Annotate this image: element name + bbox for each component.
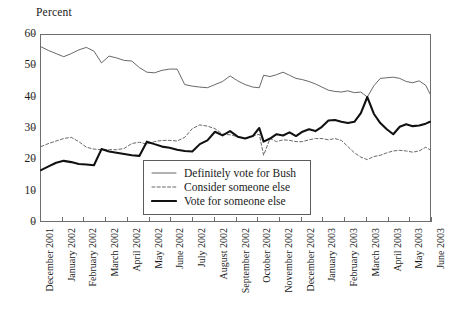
x-tick-label: March 2002 — [105, 179, 115, 228]
legend-item: Consider someone else — [151, 180, 303, 194]
y-tick-mark — [31, 65, 36, 66]
x-tick-label: January 2003 — [322, 174, 332, 228]
chart-figure: Percent 0102030405060 December 2001Janua… — [0, 0, 455, 317]
legend-swatch-icon — [151, 167, 177, 179]
y-tick-mark — [31, 128, 36, 129]
x-tick-label: February 2003 — [344, 169, 354, 228]
legend-label: Vote for someone else — [184, 195, 286, 208]
legend-item: Definitely vote for Bush — [151, 166, 303, 180]
series-line — [41, 47, 430, 97]
y-tick-mark — [31, 34, 36, 35]
legend-label: Definitely vote for Bush — [184, 167, 296, 180]
x-tick-label: April 2003 — [388, 184, 398, 228]
x-tick-label: May 2003 — [409, 187, 419, 228]
legend-swatch-icon — [151, 195, 177, 207]
x-tick-label: June 2003 — [431, 187, 441, 228]
legend-label: Consider someone else — [184, 181, 290, 194]
y-tick-mark — [31, 190, 36, 191]
x-tick-label: February 2002 — [83, 169, 93, 228]
y-tick-mark — [31, 96, 36, 97]
x-axis-ticks: December 2001January 2002February 2002Ma… — [40, 222, 431, 317]
y-axis-title: Percent — [36, 6, 72, 18]
x-tick-label: December 2001 — [40, 164, 50, 228]
y-axis-ticks: 0102030405060 — [0, 34, 36, 222]
x-tick-label: March 2003 — [366, 179, 376, 228]
legend: Definitely vote for BushConsider someone… — [143, 160, 311, 215]
x-tick-label: April 2002 — [127, 184, 137, 228]
legend-item: Vote for someone else — [151, 194, 303, 208]
legend-swatch-icon — [151, 181, 177, 193]
y-tick-mark — [31, 222, 36, 223]
y-tick-mark — [31, 159, 36, 160]
x-tick-label: January 2002 — [62, 174, 72, 228]
